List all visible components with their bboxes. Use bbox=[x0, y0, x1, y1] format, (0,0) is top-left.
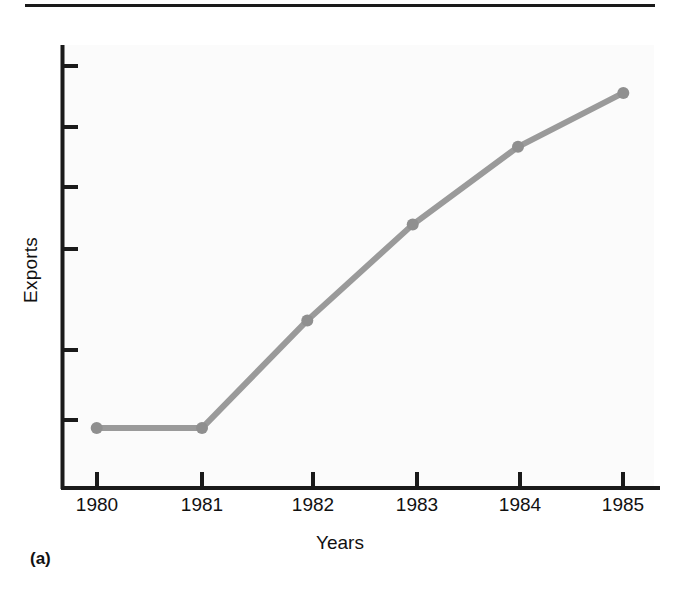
x-axis-title: Years bbox=[0, 532, 680, 554]
x-tick-label-1984: 1984 bbox=[475, 494, 565, 516]
x-tick-label-1982: 1982 bbox=[268, 494, 358, 516]
data-point-1983 bbox=[407, 219, 419, 231]
data-series-line bbox=[97, 93, 624, 428]
data-point-1980 bbox=[91, 422, 103, 434]
data-point-1981 bbox=[196, 422, 208, 434]
x-tick-label-1981: 1981 bbox=[157, 494, 247, 516]
y-axis-title: Exports bbox=[20, 230, 42, 310]
x-tick-label-1983: 1983 bbox=[372, 494, 462, 516]
data-point-1984 bbox=[512, 141, 524, 153]
x-tick-label-1980: 1980 bbox=[52, 494, 142, 516]
x-axis-ticks bbox=[97, 472, 623, 488]
data-point-1985 bbox=[617, 87, 629, 99]
data-point-1982 bbox=[301, 314, 313, 326]
data-point-markers bbox=[91, 87, 630, 434]
panel-caption: (a) bbox=[30, 549, 51, 569]
figure-panel: Exports 1980 1981 1982 1983 1984 1985 Ye… bbox=[0, 0, 680, 593]
x-tick-label-1985: 1985 bbox=[578, 494, 668, 516]
